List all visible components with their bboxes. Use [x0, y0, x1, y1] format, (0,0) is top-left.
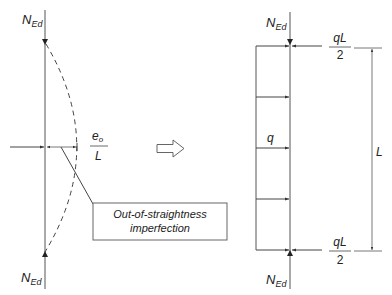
right-bottom-force-label: NEd	[266, 272, 287, 289]
top-force-arrow-icon	[42, 39, 48, 45]
eccentricity-numerator: eo	[92, 129, 104, 144]
bottom-reaction-denominator: 2	[337, 253, 344, 267]
bottom-axial-arrow-icon	[287, 250, 293, 256]
length-label: L	[376, 145, 383, 159]
eccentricity-denominator: L	[95, 149, 102, 163]
deflected-shape-curve	[45, 44, 77, 252]
top-reaction-denominator: 2	[337, 48, 344, 62]
distributed-load-label: q	[267, 131, 274, 145]
left-figure: NEd eo L Out-of-straightness imperfectio…	[10, 10, 227, 289]
diagram-canvas: NEd eo L Out-of-straightness imperfectio…	[0, 0, 392, 295]
bottom-reaction-numerator: qL	[333, 235, 346, 249]
left-top-force-label: NEd	[22, 12, 43, 29]
left-bottom-force-label: NEd	[21, 270, 42, 287]
top-reaction-numerator: qL	[333, 31, 346, 45]
right-figure: NEd q qL 2 qL 2 L NEd	[256, 12, 383, 289]
hollow-right-arrow-icon	[157, 140, 184, 157]
callout-line-2: imperfection	[130, 222, 190, 234]
right-top-force-label: NEd	[266, 15, 287, 32]
top-axial-arrow-icon	[287, 39, 293, 45]
callout-line-1: Out-of-straightness	[113, 208, 207, 220]
